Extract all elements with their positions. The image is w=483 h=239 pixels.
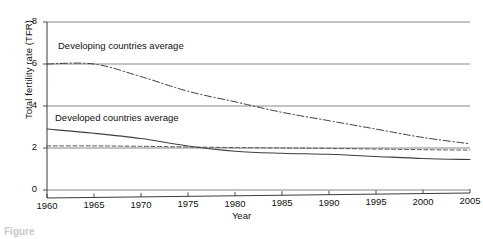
series-label-developing: Developing countries average [58, 40, 184, 51]
x-tick-label-1980: 1980 [215, 198, 255, 209]
y-tick-label-4: 4 [15, 99, 37, 110]
y-tick-label-6: 6 [15, 57, 37, 68]
y-tick-label-2: 2 [15, 141, 37, 152]
figure-caption-fragment: Figure [4, 226, 35, 238]
x-tick-label-1970: 1970 [121, 199, 161, 210]
series-line-0 [47, 63, 470, 144]
x-axis-title: Year [0, 210, 483, 221]
x-tick-label-1960: 1960 [27, 200, 67, 211]
x-tick-label-2000: 2000 [403, 196, 443, 207]
series-line-1 [47, 129, 470, 159]
y-tick-label-8: 8 [15, 15, 37, 26]
series-label-developed: Developed countries average [55, 112, 179, 123]
figure-root: Total fertility rate (TFR) Year 02468 19… [0, 0, 483, 239]
x-tick-label-1995: 1995 [356, 196, 396, 207]
x-tick-label-1965: 1965 [74, 199, 114, 210]
x-tick-label-1985: 1985 [262, 197, 302, 208]
x-tick-label-1990: 1990 [309, 197, 349, 208]
y-tick-label-0: 0 [15, 183, 37, 194]
x-tick-label-2005: 2005 [450, 195, 483, 206]
x-tick-label-1975: 1975 [168, 198, 208, 209]
